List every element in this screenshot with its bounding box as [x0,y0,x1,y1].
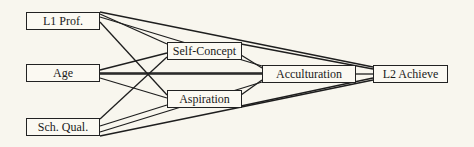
node-acculturation: Acculturation [262,65,356,83]
edge-l1prof-aspiration [100,22,167,95]
node-self-concept: Self-Concept [167,42,242,60]
node-l2-achieve: L2 Achieve [373,65,448,83]
node-label: Aspiration [179,92,230,107]
edge-schqual-aspiration [100,105,167,126]
node-label: Self-Concept [173,44,236,59]
node-label: L1 Prof. [43,14,83,29]
node-label: L2 Achieve [383,67,439,82]
edge-age-selfconcept [100,53,167,70]
node-label: Sch. Qual. [38,120,88,135]
node-l1-prof: L1 Prof. [26,12,100,30]
node-sch-qual: Sch. Qual. [26,118,100,136]
edge-selfconcept-acculturation [241,55,262,68]
node-age: Age [26,64,100,82]
node-label: Acculturation [276,67,342,82]
node-label: Age [53,66,73,81]
node-aspiration: Aspiration [167,90,242,108]
edge-schqual-l2achieve [100,80,373,136]
edge-schqual-selfconcept [100,57,167,119]
